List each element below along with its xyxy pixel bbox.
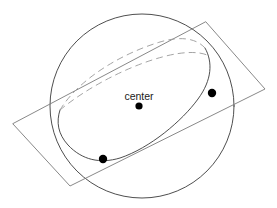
center-point	[135, 102, 142, 109]
labels-layer: center	[124, 90, 154, 102]
center-point-label: center	[124, 90, 154, 102]
lower-left-tangency-point	[99, 155, 107, 163]
geometry-canvas: center	[0, 0, 277, 208]
geometry-figure: center	[0, 0, 277, 208]
right-tangency-point	[208, 89, 216, 97]
